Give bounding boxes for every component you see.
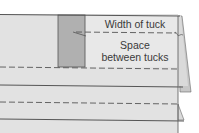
label-between-tucks: between tucks	[96, 51, 174, 63]
label-width-of-tuck: Width of tuck	[100, 18, 170, 30]
tuck-shaded-block	[58, 15, 85, 67]
tuck-diagram: Width of tuck Space between tucks	[0, 0, 199, 133]
lower-fold	[178, 104, 184, 120]
label-space: Space	[100, 39, 170, 51]
